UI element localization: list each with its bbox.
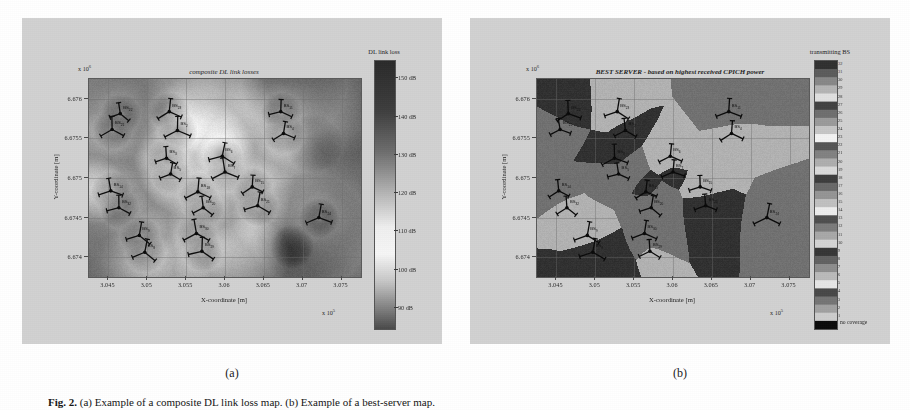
panel-a-colorbar-title: DL link loss	[368, 48, 399, 55]
y-tick-label: 6.6755	[496, 134, 530, 141]
x-tick-mark	[711, 276, 712, 280]
x-tick-label: 3.065	[256, 281, 270, 288]
colorbar-band-label: 22	[838, 143, 842, 147]
x-tick-label: 3.065	[704, 281, 718, 288]
colorbar-tick-label: 110 dB	[398, 227, 416, 234]
figure-caption-label: Fig. 2.	[48, 396, 77, 408]
panel-b-colorbar-title: transmitting BS	[810, 48, 850, 55]
x-tick-mark	[146, 276, 147, 280]
colorbar-band-label: 31	[838, 70, 842, 74]
x-tick-label: 3.045	[548, 281, 562, 288]
base-station-marker: BS29	[89, 79, 361, 277]
colorbar-band-label: 32	[838, 62, 842, 66]
antenna-sector-icon	[89, 79, 361, 277]
y-tick-label: 6.6755	[48, 134, 82, 141]
x-tick-mark	[633, 276, 634, 280]
colorbar-band-label: 27	[838, 103, 842, 107]
panel-a-yaxis-label: Y-coordinate [m]	[52, 154, 59, 199]
antenna-sector-icon	[537, 79, 809, 277]
x-tick-label: 3.05	[141, 281, 152, 288]
panel-a-plot-title: composite DL link losses	[189, 68, 259, 76]
panel-b-xaxis-label: X-coordinate [m]	[649, 296, 695, 303]
panel-b-y-exponent: x 106	[526, 64, 539, 72]
y-tick-mark	[84, 98, 88, 99]
panel-a-x-exponent: x 105	[322, 308, 335, 316]
colorbar-band-label: 28	[838, 94, 842, 98]
panel-a-xaxis-label: X-coordinate [m]	[201, 296, 247, 303]
base-station-marker: BS29	[537, 79, 809, 277]
panel-b-plot-title: BEST SERVER - based on highest received …	[596, 68, 765, 76]
panel-a-axes: BS22BS21BS23BS2BS11BS4BS3BS5BS6BS7BS14BS…	[88, 78, 362, 278]
x-tick-label: 3.07	[744, 281, 755, 288]
panel-b-colorbar-nocoverage-label: no coverage	[840, 319, 867, 325]
colorbar-tick-label: 130 dB	[398, 150, 416, 157]
figure-caption: Fig. 2. (a) Example of a composite DL li…	[48, 396, 868, 410]
panel-a-colorbar-gradient	[375, 61, 395, 329]
y-tick-mark	[84, 137, 88, 138]
panel-a-y-exponent: x 106	[78, 64, 91, 72]
panel-b-x-exponent: x 105	[770, 308, 783, 316]
y-tick-mark	[532, 256, 536, 257]
colorbar-band-label: 10	[838, 241, 842, 245]
colorbar-band-label: 9	[838, 249, 840, 253]
y-tick-mark	[532, 137, 536, 138]
y-tick-mark	[532, 217, 536, 218]
y-tick-label: 6.676	[496, 94, 530, 101]
x-tick-mark	[107, 276, 108, 280]
colorbar-tick-label: 150 dB	[398, 74, 416, 81]
figure-caption-text: (a) Example of a composite DL link loss …	[80, 396, 435, 408]
panel-b-axes: BS22BS21BS23BS2BS11BS4BS3BS5BS6BS7BS14BS…	[536, 78, 810, 278]
colorbar-band-label: 30	[838, 78, 842, 82]
colorbar-band-label: 4	[838, 289, 840, 293]
colorbar-band-label: 16	[838, 192, 842, 196]
x-tick-mark	[185, 276, 186, 280]
y-tick-mark	[84, 177, 88, 178]
x-tick-mark	[789, 276, 790, 280]
x-tick-label: 3.055	[626, 281, 640, 288]
x-tick-mark	[555, 276, 556, 280]
colorbar-band-label: 25	[838, 119, 842, 123]
colorbar-band-label: 19	[838, 167, 842, 171]
colorbar-tick-label: 90 dB	[398, 303, 413, 310]
colorbar-band-label: 12	[838, 224, 842, 228]
x-tick-mark	[672, 276, 673, 280]
x-tick-mark	[341, 276, 342, 280]
colorbar-band-label: 1	[838, 314, 840, 318]
subcaption-a: (a)	[225, 366, 238, 381]
x-tick-label: 3.075	[781, 281, 795, 288]
colorbar-band-label: 5	[838, 281, 840, 285]
colorbar-band-label: 17	[838, 184, 842, 188]
y-tick-label: 6.674	[496, 253, 530, 260]
figure-panel-b: BEST SERVER - based on highest received …	[470, 18, 890, 344]
x-tick-label: 3.05	[589, 281, 600, 288]
x-tick-label: 3.045	[100, 281, 114, 288]
x-tick-label: 3.055	[178, 281, 192, 288]
y-tick-label: 6.674	[48, 253, 82, 260]
colorbar-band-label: 13	[838, 216, 842, 220]
panel-b-yaxis-label: Y-coordinate [m]	[500, 154, 507, 199]
colorbar-band-label: 29	[838, 86, 842, 90]
x-tick-mark	[263, 276, 264, 280]
x-tick-label: 3.06	[218, 281, 229, 288]
colorbar-tick-label: 120 dB	[398, 189, 416, 196]
panel-b-colorbar-bands	[815, 61, 837, 329]
colorbar-band-label: 11	[838, 232, 842, 236]
x-tick-mark	[224, 276, 225, 280]
figure-page: composite DL link losses x 106 x 105 BS2…	[0, 0, 910, 410]
colorbar-band-label: 18	[838, 176, 842, 180]
colorbar-band-label: 6	[838, 273, 840, 277]
x-tick-mark	[594, 276, 595, 280]
y-tick-label: 6.676	[48, 94, 82, 101]
panel-b-colorbar	[814, 60, 838, 330]
panel-a-colorbar	[374, 60, 396, 330]
colorbar-band-label: 2	[838, 306, 840, 310]
y-tick-mark	[532, 177, 536, 178]
y-tick-label: 6.6745	[496, 213, 530, 220]
y-tick-mark	[532, 98, 536, 99]
colorbar-band-label: 8	[838, 257, 840, 261]
y-tick-mark	[84, 217, 88, 218]
colorbar-band-label: 15	[838, 200, 842, 204]
y-tick-mark	[84, 256, 88, 257]
colorbar-band-label: 24	[838, 127, 842, 131]
x-tick-label: 3.06	[666, 281, 677, 288]
